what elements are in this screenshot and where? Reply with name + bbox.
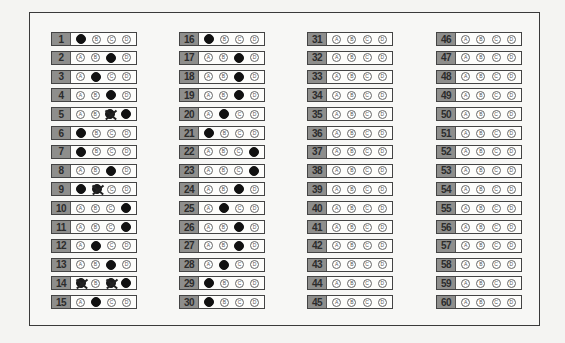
- answer-bubble-c[interactable]: C: [234, 166, 243, 175]
- answer-bubble-b[interactable]: B: [347, 129, 356, 138]
- answer-bubble-d[interactable]: D: [507, 91, 516, 100]
- answer-bubble-d-filled[interactable]: D: [121, 278, 131, 288]
- answer-bubble-d[interactable]: D: [507, 241, 516, 250]
- answer-bubble-b[interactable]: B: [476, 72, 485, 81]
- answer-bubble-c[interactable]: C: [492, 147, 501, 156]
- answer-bubble-c[interactable]: C: [363, 260, 372, 269]
- answer-bubble-a[interactable]: A: [461, 72, 470, 81]
- answer-bubble-d[interactable]: D: [378, 91, 387, 100]
- answer-bubble-b[interactable]: B: [476, 223, 485, 232]
- answer-bubble-d[interactable]: D: [378, 298, 387, 307]
- answer-bubble-a[interactable]: A: [332, 147, 341, 156]
- answer-bubble-a[interactable]: A: [204, 91, 213, 100]
- answer-bubble-d[interactable]: D: [378, 279, 387, 288]
- answer-bubble-b[interactable]: B: [220, 298, 229, 307]
- answer-bubble-d[interactable]: D: [250, 91, 259, 100]
- answer-bubble-a[interactable]: A: [204, 185, 213, 194]
- answer-bubble-d[interactable]: D: [122, 91, 131, 100]
- answer-bubble-a-filled[interactable]: A: [76, 184, 86, 194]
- answer-bubble-b-filled[interactable]: B: [219, 109, 229, 119]
- answer-bubble-b[interactable]: B: [91, 166, 100, 175]
- answer-bubble-d[interactable]: D: [250, 241, 259, 250]
- answer-bubble-a[interactable]: A: [332, 129, 341, 138]
- answer-bubble-c[interactable]: C: [107, 241, 116, 250]
- answer-bubble-b[interactable]: B: [476, 185, 485, 194]
- answer-bubble-d[interactable]: D: [507, 260, 516, 269]
- answer-bubble-d-filled[interactable]: D: [249, 166, 259, 176]
- answer-bubble-c-filled[interactable]: C: [106, 166, 116, 176]
- answer-bubble-b[interactable]: B: [476, 298, 485, 307]
- answer-bubble-a[interactable]: A: [461, 223, 470, 232]
- answer-bubble-d[interactable]: D: [507, 129, 516, 138]
- answer-bubble-b[interactable]: B: [347, 53, 356, 62]
- answer-bubble-c[interactable]: C: [492, 53, 501, 62]
- answer-bubble-b[interactable]: B: [347, 185, 356, 194]
- answer-bubble-b[interactable]: B: [347, 204, 356, 213]
- answer-bubble-d[interactable]: D: [507, 166, 516, 175]
- answer-bubble-b[interactable]: B: [92, 129, 101, 138]
- answer-bubble-c[interactable]: C: [107, 72, 116, 81]
- answer-bubble-d-filled[interactable]: D: [121, 222, 131, 232]
- answer-bubble-c[interactable]: C: [492, 241, 501, 250]
- answer-bubble-a[interactable]: A: [76, 204, 85, 213]
- answer-bubble-c-filled[interactable]: C: [106, 90, 116, 100]
- answer-bubble-b[interactable]: B: [347, 241, 356, 250]
- answer-bubble-b[interactable]: B: [476, 166, 485, 175]
- answer-bubble-d[interactable]: D: [122, 53, 131, 62]
- answer-bubble-a[interactable]: A: [76, 53, 85, 62]
- answer-bubble-b[interactable]: B: [347, 91, 356, 100]
- answer-bubble-d[interactable]: D: [378, 72, 387, 81]
- answer-bubble-d[interactable]: D: [250, 110, 259, 119]
- answer-bubble-c-filled[interactable]: C: [234, 53, 244, 63]
- answer-bubble-d[interactable]: D: [122, 35, 131, 44]
- answer-bubble-b[interactable]: B: [91, 53, 100, 62]
- answer-bubble-c[interactable]: C: [363, 91, 372, 100]
- answer-bubble-b[interactable]: B: [91, 91, 100, 100]
- answer-bubble-c[interactable]: C: [492, 260, 501, 269]
- answer-bubble-c[interactable]: C: [107, 129, 116, 138]
- answer-bubble-a[interactable]: A: [76, 298, 85, 307]
- answer-bubble-b[interactable]: B: [347, 298, 356, 307]
- answer-bubble-b[interactable]: B: [347, 72, 356, 81]
- answer-bubble-c[interactable]: C: [492, 166, 501, 175]
- answer-bubble-b[interactable]: B: [220, 129, 229, 138]
- answer-bubble-d[interactable]: D: [378, 241, 387, 250]
- answer-bubble-b[interactable]: B: [219, 223, 228, 232]
- answer-bubble-b[interactable]: B: [219, 147, 228, 156]
- answer-bubble-a[interactable]: A: [332, 204, 341, 213]
- answer-bubble-a[interactable]: A: [76, 223, 85, 232]
- answer-bubble-c[interactable]: C: [363, 298, 372, 307]
- answer-bubble-b-filled[interactable]: B: [219, 260, 229, 270]
- answer-bubble-c-filled[interactable]: C: [234, 90, 244, 100]
- answer-bubble-b[interactable]: B: [476, 53, 485, 62]
- answer-bubble-d[interactable]: D: [122, 72, 131, 81]
- answer-bubble-d[interactable]: D: [250, 204, 259, 213]
- answer-bubble-c[interactable]: C: [235, 35, 244, 44]
- answer-bubble-a[interactable]: A: [461, 279, 470, 288]
- answer-bubble-d[interactable]: D: [378, 129, 387, 138]
- answer-bubble-c[interactable]: C: [492, 279, 501, 288]
- answer-bubble-b[interactable]: B: [219, 91, 228, 100]
- answer-bubble-d[interactable]: D: [507, 35, 516, 44]
- answer-bubble-a[interactable]: A: [461, 110, 470, 119]
- answer-bubble-c[interactable]: C: [363, 166, 372, 175]
- answer-bubble-a[interactable]: A: [461, 185, 470, 194]
- answer-bubble-c[interactable]: C: [106, 223, 115, 232]
- answer-bubble-d-filled[interactable]: D: [121, 109, 131, 119]
- answer-bubble-a[interactable]: A: [332, 298, 341, 307]
- answer-bubble-b[interactable]: B: [91, 260, 100, 269]
- answer-bubble-c[interactable]: C: [363, 53, 372, 62]
- answer-bubble-a-filled[interactable]: A: [204, 297, 214, 307]
- answer-bubble-d[interactable]: D: [378, 110, 387, 119]
- answer-bubble-d-filled[interactable]: D: [121, 203, 131, 213]
- answer-bubble-b[interactable]: B: [92, 35, 101, 44]
- answer-bubble-b[interactable]: B: [91, 204, 100, 213]
- answer-bubble-b[interactable]: B: [220, 279, 229, 288]
- answer-bubble-d[interactable]: D: [378, 204, 387, 213]
- answer-bubble-b[interactable]: B: [347, 35, 356, 44]
- answer-bubble-d[interactable]: D: [507, 147, 516, 156]
- answer-bubble-a-filled[interactable]: A: [204, 128, 214, 138]
- answer-bubble-c[interactable]: C: [492, 110, 501, 119]
- answer-bubble-d[interactable]: D: [378, 147, 387, 156]
- answer-bubble-a[interactable]: A: [332, 35, 341, 44]
